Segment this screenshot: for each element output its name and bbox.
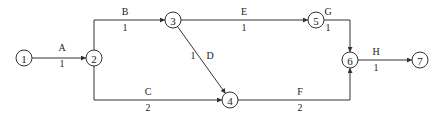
activity-duration-label: 2 bbox=[146, 102, 151, 113]
activity-duration-label: 1 bbox=[60, 58, 65, 69]
node-number: 3 bbox=[170, 15, 176, 27]
activity-name-label: G bbox=[324, 6, 331, 17]
activity-name-label: H bbox=[372, 46, 379, 57]
activity-name-label: A bbox=[58, 42, 66, 53]
activity-h: H1 bbox=[358, 46, 412, 73]
node-4: 4 bbox=[222, 92, 238, 108]
activity-a: A1 bbox=[32, 42, 86, 69]
arrow-c bbox=[94, 66, 222, 100]
node-number: 1 bbox=[21, 53, 27, 65]
node-1: 1 bbox=[16, 50, 32, 66]
node-6: 6 bbox=[342, 52, 358, 68]
activity-name-label: E bbox=[241, 6, 247, 17]
node-number: 7 bbox=[417, 55, 423, 67]
network-diagram: A1B1C2D1E1F2G1H1 1234567 bbox=[0, 0, 440, 120]
arrow-b bbox=[94, 20, 165, 50]
activity-d: D1 bbox=[177, 26, 225, 93]
node-number: 6 bbox=[347, 55, 353, 67]
arrow-d bbox=[177, 26, 225, 93]
activity-duration-label: 1 bbox=[191, 50, 196, 61]
activity-name-label: F bbox=[297, 86, 303, 97]
node-number: 4 bbox=[227, 95, 233, 107]
activity-duration-label: 1 bbox=[242, 22, 247, 33]
node-3: 3 bbox=[165, 12, 181, 28]
activity-name-label: C bbox=[145, 86, 152, 97]
activity-duration-label: 2 bbox=[298, 102, 303, 113]
arrow-f bbox=[238, 68, 350, 100]
activity-g: G1 bbox=[324, 6, 350, 52]
activity-c: C2 bbox=[94, 66, 222, 113]
node-number: 5 bbox=[313, 15, 319, 27]
activity-name-label: D bbox=[206, 50, 213, 61]
activity-duration-label: 1 bbox=[374, 62, 379, 73]
activity-e: E1 bbox=[181, 6, 308, 33]
node-5: 5 bbox=[308, 12, 324, 28]
activity-duration-label: 1 bbox=[123, 22, 128, 33]
node-number: 2 bbox=[91, 53, 97, 65]
node-7: 7 bbox=[412, 52, 428, 68]
activity-f: F2 bbox=[238, 68, 350, 113]
activity-duration-label: 1 bbox=[326, 22, 331, 33]
activity-b: B1 bbox=[94, 6, 165, 50]
activity-name-label: B bbox=[122, 6, 129, 17]
node-2: 2 bbox=[86, 50, 102, 66]
